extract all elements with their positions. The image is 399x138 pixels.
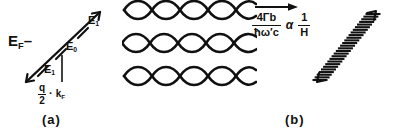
- panel-b: (b): [122, 0, 257, 138]
- panel-c: (c): [300, 0, 399, 138]
- ladder-rungs: [313, 14, 381, 80]
- level-label-e0: E0: [66, 41, 77, 54]
- level-label-e1-top: E1: [88, 15, 99, 28]
- panel-a-graphic: [0, 0, 125, 138]
- q-over-2-fraction: q 2: [38, 83, 46, 106]
- wave-row-3: [124, 67, 256, 85]
- physics-figure: EF– E1 E0 E1 q 2 · kF (a): [0, 0, 399, 138]
- kf-symbol: kF: [56, 89, 65, 100]
- panel-b-graphic: [122, 0, 257, 138]
- gamma-over-hbar-omega-fraction: 4Γb ħω′c: [252, 12, 281, 38]
- expression-numerator: 4Γb: [255, 12, 278, 24]
- wave-row-2: [122, 34, 257, 52]
- wave-row-1: [124, 1, 256, 19]
- panel-caption-a: (a): [42, 112, 61, 127]
- wavevector-label: q 2 · kF: [38, 83, 65, 106]
- panel-a: EF– E1 E0 E1 q 2 · kF (a): [0, 0, 125, 138]
- multiplication-dot: ·: [48, 88, 54, 99]
- fermi-level-label: EF–: [8, 33, 32, 51]
- level-label-e1-bottom: E1: [44, 64, 55, 77]
- panel-c-graphic: [300, 0, 399, 138]
- proportional-symbol: α: [285, 18, 294, 32]
- expression-denominator: ħω′c: [252, 25, 281, 39]
